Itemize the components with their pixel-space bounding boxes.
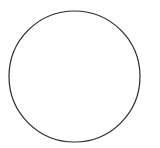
circle-outline [9,11,140,142]
canvas [0,0,160,148]
